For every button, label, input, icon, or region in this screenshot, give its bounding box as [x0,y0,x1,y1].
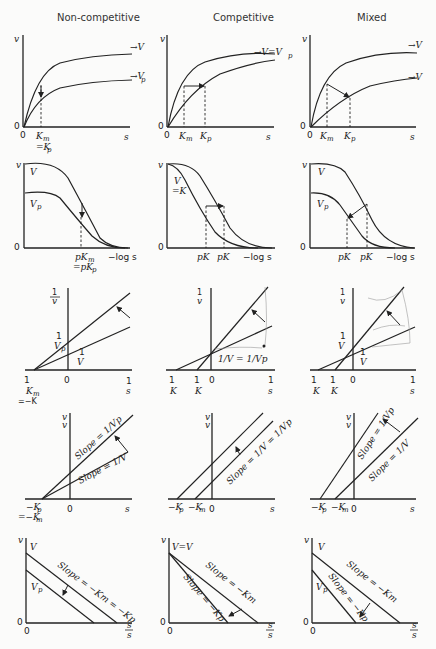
svg-text:p: p [207,135,212,143]
svg-text:0: 0 [303,617,309,627]
svg-text:1/V = 1/Vp: 1/V = 1/Vp [218,354,268,364]
svg-text:0: 0 [158,242,164,252]
svg-text:s: s [410,504,415,514]
panel-noncompetitive-lineweaver: 1 v 1 V p 1 V 1 s 0 1 K m =−K [18,288,132,406]
svg-text:−log s: −log s [386,252,415,262]
svg-text:K: K [312,386,321,396]
svg-text:s: s [268,386,273,396]
svg-text:K: K [330,386,339,396]
panel-mixed-eadie: v V V p Slope = −Km Slope = −Kp 0 0 s s [303,535,418,640]
panel-mixed-hanes: v v Slope = 1/Vp Slope = 1/V 0 s −K p −K… [310,405,418,514]
svg-text:0: 0 [351,504,357,514]
svg-text:V: V [318,167,326,177]
svg-text:1: 1 [194,375,200,385]
svg-text:1: 1 [79,347,85,357]
svg-text:V: V [318,542,326,552]
svg-text:−log s: −log s [243,252,272,262]
svg-text:pK: pK [75,252,89,262]
svg-text:pK: pK [217,252,231,262]
svg-text:0: 0 [307,130,313,140]
svg-text:p: p [92,266,97,274]
svg-text:v: v [346,420,351,430]
panel-competitive-mm: v s 0 0 →V=V p K m K p [158,34,293,143]
svg-text:0: 0 [67,504,73,514]
curve-v-inhibited [24,80,132,127]
svg-text:1: 1 [126,376,132,386]
svg-text:v: v [52,296,57,306]
svg-text:p: p [288,52,293,60]
svg-text:0: 0 [300,121,306,131]
inhibition-plots-figure: v s 0 0 →V →V p K m =K p v s 0 0 →V=V p … [0,0,436,649]
svg-text:s: s [126,386,131,396]
svg-text:0: 0 [167,626,173,636]
panel-mixed-lineweaver: 1 v 1 V 1 V 0 1 K 1 K 1 s [310,287,416,396]
svg-text:1: 1 [330,375,336,385]
svg-text:V: V [174,176,182,186]
svg-text:m: m [327,135,334,143]
svg-text:s: s [127,620,132,630]
svg-text:Slope = 1/V = 1/Vp: Slope = 1/V = 1/Vp [224,417,294,487]
svg-text:p: p [322,506,327,514]
svg-text:p: p [324,203,329,211]
svg-text:V: V [30,542,38,552]
svg-text:p: p [179,506,184,514]
svg-text:1: 1 [360,347,366,357]
svg-text:v: v [158,160,163,170]
svg-text:p: p [37,203,42,211]
panel-mixed-log: v 0 V V p pK pK −log s [300,160,415,262]
svg-text:v: v [340,296,345,306]
svg-text:→V: →V [408,40,424,50]
svg-text:v: v [205,420,210,430]
panel-noncompetitive-hanes: v v Slope = 1/Vp Slope = 1/V 0 s −K p =−… [18,412,133,524]
axis-label-v: v [14,34,19,44]
svg-text:0: 0 [160,617,166,627]
svg-text:V: V [338,341,346,351]
svg-text:m: m [199,506,206,514]
svg-text:K: K [169,386,178,396]
panel-competitive-log: v 0 V =K pK pK −log s [158,160,275,262]
svg-text:0: 0 [209,375,215,385]
svg-text:1: 1 [169,375,175,385]
svg-text:1: 1 [410,375,416,385]
svg-text:v: v [16,160,21,170]
svg-text:v: v [161,535,166,545]
svg-text:0: 0 [164,130,170,140]
panel-noncompetitive-mm: v s 0 0 →V →V p K m =K p [14,34,146,154]
svg-text:1: 1 [268,375,274,385]
svg-text:v: v [160,34,165,44]
svg-text:s: s [268,630,273,640]
panel-noncompetitive-log: v 0 V V p pK m =pK p −log s [14,160,137,274]
svg-text:p: p [47,146,52,154]
svg-text:V: V [77,357,85,367]
svg-text:s: s [412,620,417,630]
svg-text:m: m [186,135,193,143]
svg-text:s: s [125,504,130,514]
svg-text:pK: pK [197,252,211,262]
svg-text:pK: pK [360,252,374,262]
svg-text:p: p [141,76,146,84]
svg-text:V: V [360,357,368,367]
svg-text:V=V: V=V [172,542,194,552]
svg-text:1: 1 [340,331,346,341]
svg-text:→V: →V [408,72,424,82]
svg-text:V: V [30,167,38,177]
svg-text:1: 1 [311,375,317,385]
svg-text:0: 0 [17,617,23,627]
svg-text:pK: pK [338,252,352,262]
svg-text:m: m [342,506,349,514]
svg-text:0: 0 [20,130,26,140]
panel-noncompetitive-eadie: v V V p Slope = −Km = −Kp 0 0 s s [17,535,138,640]
axis-label-s: s [124,132,129,142]
panel-competitive-hanes: v v Slope = 1/V = 1/Vp 0 s −K p −K m [168,412,294,514]
svg-text:s: s [270,504,275,514]
panel-competitive-lineweaver: 1 v 1/V = 1/Vp 0 1 K 1 K 1 s [166,287,275,396]
svg-text:v: v [302,34,307,44]
svg-text:0: 0 [350,375,356,385]
svg-text:0: 0 [310,626,316,636]
svg-text:s: s [127,630,132,640]
svg-text:s: s [410,132,415,142]
svg-text:1: 1 [56,331,62,341]
svg-text:=−K: =−K [18,397,37,406]
svg-text:s: s [412,630,417,640]
svg-text:−log s: −log s [108,252,137,262]
